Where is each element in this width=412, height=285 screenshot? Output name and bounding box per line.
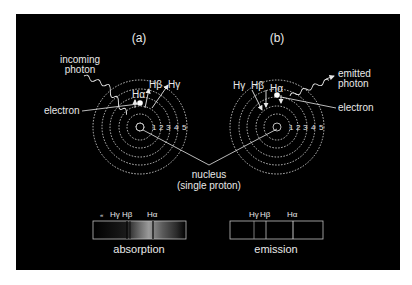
svg-text:4: 4 [174,123,179,132]
svg-text:2: 2 [296,123,301,132]
transition-b-gamma: Hγ [233,80,245,91]
panel-b-label: (b) [270,31,285,45]
svg-text:3: 3 [303,123,308,132]
emission-spectrum [230,221,323,239]
svg-text:2: 2 [159,123,164,132]
electron-a-icon [137,100,143,106]
transition-a-beta: Hβ [149,79,162,90]
emission-label-beta: Hβ [260,210,271,219]
absorption-extra-mark: « [100,212,104,218]
electron-a-label: electron [44,105,80,116]
absorption-label-gamma: Hγ [110,210,120,219]
emission-label-alpha: Hα [287,210,298,219]
emitted-photon-label-2: photon [338,78,369,89]
svg-text:4: 4 [311,123,316,132]
emission-title: emission [254,243,297,255]
orbit-numbers-a: 1 2 3 4 5 [152,123,187,132]
electron-b-label: electron [338,102,374,113]
svg-text:1: 1 [289,123,294,132]
panel-a-label: (a) [132,31,147,45]
nucleus-label: nucleus [192,169,226,180]
incoming-photon-label-2: photon [65,64,96,75]
svg-text:1: 1 [152,123,157,132]
nucleus-sublabel: (single proton) [177,180,241,191]
absorption-title: absorption [113,243,164,255]
svg-text:3: 3 [166,123,171,132]
orbit-numbers-b: 1 2 3 4 5 [289,123,324,132]
transition-b-alpha: Hα [270,83,283,94]
svg-text:5: 5 [182,123,187,132]
absorption-spectrum [93,221,186,239]
nucleus-a-icon [136,123,144,131]
svg-text:5: 5 [319,123,324,132]
transition-a-gamma: Hγ [168,79,180,90]
transition-b-beta: Hβ [251,80,264,91]
emission-label-gamma: Hγ [249,210,259,219]
transition-a-alpha: Hα [132,89,145,100]
absorption-label-alpha: Hα [147,210,158,219]
absorption-label-beta: Hβ [122,210,133,219]
bohr-model-diagram: (a) (b) incoming photon electron Hα Hβ H… [0,0,412,285]
nucleus-b-icon [273,123,281,131]
